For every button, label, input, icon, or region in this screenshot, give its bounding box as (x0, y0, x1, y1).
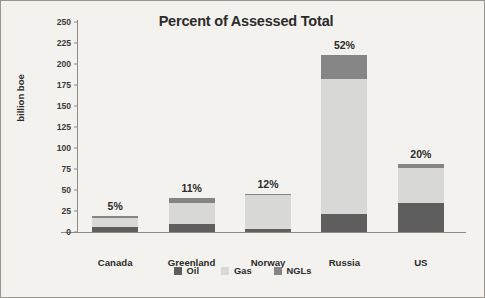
chart-legend: OilGasNGLs (0, 266, 485, 276)
y-axis-tick-label: 125 (57, 122, 71, 132)
y-axis-tick-mark (74, 169, 77, 170)
bar-group[interactable]: 11% (169, 198, 215, 232)
y-axis-tick-label: 100 (57, 143, 71, 153)
y-axis-tick-label: 50 (61, 185, 71, 195)
bar-segment-gas[interactable] (169, 203, 215, 224)
y-axis-tick-label: 175 (57, 80, 71, 90)
bar-segment-oil[interactable] (398, 203, 444, 232)
legend-item[interactable]: NGLs (274, 266, 312, 276)
bar-segment-oil[interactable] (92, 227, 138, 232)
legend-label: NGLs (287, 266, 312, 276)
chart-frame: Percent of Assessed Total billion boe 02… (0, 0, 485, 298)
y-axis-tick-mark (74, 148, 77, 149)
bar-segment-gas[interactable] (92, 218, 138, 227)
legend-label: Oil (187, 266, 199, 276)
legend-item[interactable]: Oil (174, 266, 199, 276)
bar-segment-oil[interactable] (169, 224, 215, 232)
bar-segment-gas[interactable] (245, 195, 291, 229)
y-axis-label-text: billion boe (15, 74, 26, 122)
y-axis-tick-label: 75 (61, 164, 71, 174)
bar-value-label: 12% (257, 178, 278, 190)
legend-label: Gas (234, 266, 252, 276)
y-axis-tick-mark (74, 22, 77, 23)
y-axis-tick-label: 25 (61, 206, 71, 216)
bar-segment-gas[interactable] (398, 168, 444, 203)
y-axis-tick-label: 0 (66, 227, 71, 237)
bar-group[interactable]: 52% (321, 55, 367, 232)
y-axis-tick-label: 150 (57, 101, 71, 111)
y-axis-tick-label: 200 (57, 59, 71, 69)
legend-swatch-icon (221, 267, 229, 275)
y-axis-tick-mark (74, 106, 77, 107)
y-axis-tick-mark (74, 85, 77, 86)
bar-value-label: 52% (334, 39, 355, 51)
legend-swatch-icon (274, 267, 282, 275)
bar-segment-gas[interactable] (321, 79, 367, 214)
x-axis-line (61, 232, 466, 233)
y-axis-tick-label: 225 (57, 38, 71, 48)
bar-segment-ngls[interactable] (321, 55, 367, 79)
bar-segment-oil[interactable] (245, 229, 291, 232)
y-axis-tick-mark (74, 64, 77, 65)
y-axis-tick-mark (74, 211, 77, 212)
y-axis-label: billion boe (15, 27, 26, 97)
y-axis-tick-mark (74, 232, 77, 233)
bar-group[interactable]: 20% (398, 164, 444, 232)
y-axis-tick-mark (74, 43, 77, 44)
bar-value-label: 5% (108, 200, 123, 212)
bar-segment-oil[interactable] (321, 214, 367, 232)
bar-group[interactable]: 5% (92, 216, 138, 232)
legend-item[interactable]: Gas (221, 266, 252, 276)
legend-swatch-icon (174, 267, 182, 275)
y-axis-tick-mark (74, 190, 77, 191)
y-axis-tick-label: 250 (57, 17, 71, 27)
bar-value-label: 20% (410, 148, 431, 160)
bar-value-label: 11% (181, 182, 201, 194)
plot-area: 02550751001251501752002252505%Canada11%G… (77, 22, 459, 232)
y-axis-tick-mark (74, 127, 77, 128)
bar-group[interactable]: 12% (245, 194, 291, 232)
